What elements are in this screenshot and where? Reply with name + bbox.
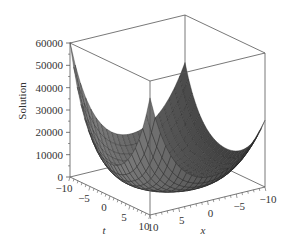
z-tick-label: 50000 [36,59,64,71]
z-tick-label: 40000 [36,82,64,94]
x-tick-label: 0 [208,207,214,219]
z-tick-label: 30000 [36,104,64,116]
x-axis-title: x [200,224,206,236]
t-tick-label: −10 [55,182,73,194]
z-tick-label: 60000 [36,37,64,49]
x-tick-label: 5 [179,214,185,226]
x-axis: 1050−5−10 [148,187,278,233]
t-tick-label: 0 [101,201,107,213]
x-tick-label: 10 [148,221,160,233]
x-tick-label: −5 [233,200,245,212]
z-axis-title: Solution [16,82,28,120]
x-tick-label: −10 [259,193,277,205]
t-axis-title: t [102,224,106,236]
z-tick-label: 20000 [36,126,64,138]
z-axis: 0100002000030000400005000060000 [36,37,71,183]
surface-plot: 0100002000030000400005000060000 −10−5051… [0,0,285,247]
z-tick-label: 10000 [36,149,64,161]
t-tick-label: −5 [78,192,90,204]
t-tick-label: 5 [121,211,127,223]
